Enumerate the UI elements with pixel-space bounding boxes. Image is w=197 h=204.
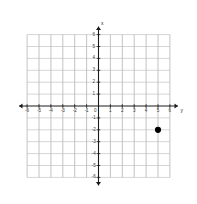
y-axis-tick-label: -5: [92, 163, 96, 168]
y-axis-tick-label: -3: [92, 139, 96, 144]
x-axis-tick-label: 3: [133, 109, 136, 114]
x-axis-tick-label: -4: [49, 109, 53, 114]
x-axis-tick-label: 6: [169, 109, 172, 114]
x-axis-tick-label-zero: 0: [94, 109, 97, 114]
x-axis-tick-label: 2: [121, 109, 124, 114]
horizontal-axis-arrow-negative: [19, 103, 22, 108]
y-axis-tick-label: -2: [92, 128, 96, 133]
y-axis-tick-label: 2: [93, 80, 96, 85]
y-axis-tick-label: 5: [93, 44, 96, 49]
vertical-axis-label: x: [101, 21, 104, 26]
coordinate-plane-figure: (5, -2) x y -6-5-4-3-2-10123456654321-1-…: [0, 0, 197, 204]
axes: [19, 27, 178, 186]
vertical-axis-arrow-negative: [96, 182, 101, 185]
x-axis-tick-label: 4: [145, 109, 148, 114]
x-axis-tick-label: -3: [61, 109, 65, 114]
y-axis-tick-label: -1: [92, 116, 96, 121]
y-axis-tick-label: 1: [93, 92, 96, 97]
horizontal-axis-label: y: [180, 108, 183, 113]
x-axis-tick-label: -6: [25, 109, 29, 114]
data-points: (5, -2): [155, 127, 161, 133]
y-axis-tick-label: -6: [92, 175, 96, 180]
coordinate-plane-canvas: (5, -2): [0, 0, 197, 204]
vertical-axis-arrow-positive: [96, 27, 101, 30]
y-axis-tick-label: 3: [93, 68, 96, 73]
y-axis-tick-label: 4: [93, 56, 96, 61]
horizontal-axis-arrow-positive: [175, 103, 178, 108]
x-axis-tick-label: 1: [109, 109, 112, 114]
x-axis-tick-label: 5: [157, 109, 160, 114]
plotted-point[interactable]: (5, -2): [155, 127, 161, 133]
y-axis-tick-label: 6: [93, 32, 96, 37]
x-axis-tick-label: -5: [37, 109, 41, 114]
x-axis-tick-label: -1: [85, 109, 89, 114]
x-axis-tick-label: -2: [73, 109, 77, 114]
y-axis-tick-label: -4: [92, 151, 96, 156]
